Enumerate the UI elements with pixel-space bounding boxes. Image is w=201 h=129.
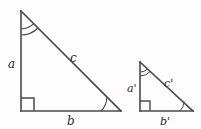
small-triangle-label-b-prime: b' <box>160 115 170 128</box>
large-triangle-label-c: c <box>70 51 77 65</box>
large-triangle-label-b: b <box>67 114 75 128</box>
large-triangle-group: a c b <box>8 11 121 128</box>
large-triangle-base-angle-arc <box>101 97 107 111</box>
small-triangle-label-c-prime: c' <box>164 77 173 90</box>
small-triangle-right-angle-marker <box>140 101 150 111</box>
small-triangle-group: a' c' b' <box>127 62 193 128</box>
similar-triangles-figure: a c b a' c' b' <box>0 0 201 129</box>
triangles-svg: a c b a' c' b' <box>0 0 201 129</box>
small-triangle-label-a-prime: a' <box>127 82 137 95</box>
large-triangle-label-a: a <box>8 57 15 71</box>
large-triangle-apex-arc-outer <box>21 24 34 29</box>
large-triangle-right-angle-marker <box>21 98 34 111</box>
small-triangle-apex-arc-outer <box>140 69 147 72</box>
